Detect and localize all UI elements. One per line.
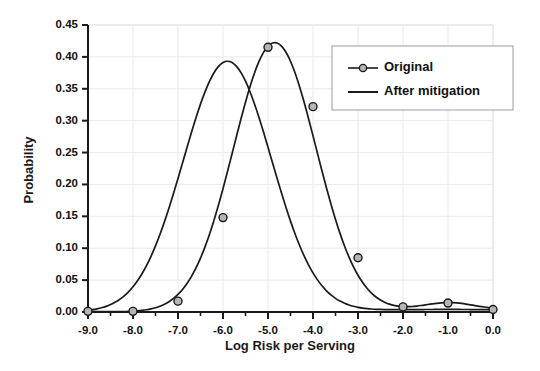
y-axis-title: Probability (21, 136, 36, 204)
data-point-marker (489, 305, 497, 313)
x-tick-label: -3.0 (348, 324, 368, 336)
y-tick-label: 0.25 (56, 146, 79, 158)
y-tick-label: 0.10 (56, 241, 78, 253)
y-tick-label: 0.00 (56, 305, 78, 317)
data-point-marker (174, 297, 182, 305)
legend-label-after-mitigation: After mitigation (384, 83, 480, 98)
y-tick-label: 0.30 (56, 114, 78, 126)
y-tick-label: 0.35 (56, 82, 79, 94)
data-point-marker (84, 307, 92, 315)
x-axis-title: Log Risk per Serving (225, 338, 355, 353)
data-point-marker (264, 43, 272, 51)
x-tick-label: 0.0 (485, 324, 501, 336)
data-point-marker (444, 299, 452, 307)
probability-distribution-chart: 0.000.050.100.150.200.250.300.350.400.45… (0, 0, 540, 371)
legend-label-original: Original (384, 59, 433, 74)
x-tick-label: -6.0 (213, 324, 233, 336)
legend: Original After mitigation (332, 46, 513, 110)
x-tick-label: -1.0 (438, 324, 458, 336)
x-tick-label: -4.0 (303, 324, 323, 336)
y-tick-label: 0.40 (56, 50, 78, 62)
x-tick-label: -5.0 (258, 324, 278, 336)
circle-marker-icon (359, 64, 366, 71)
data-point-marker (354, 254, 362, 262)
y-tick-label: 0.15 (56, 209, 79, 221)
x-tick-label: -9.0 (78, 324, 98, 336)
y-tick-label: 0.45 (56, 18, 79, 30)
y-tick-label: 0.20 (56, 177, 78, 189)
data-point-marker (309, 103, 317, 111)
x-tick-label: -2.0 (393, 324, 413, 336)
y-tick-label: 0.05 (56, 273, 79, 285)
x-tick-label: -7.0 (168, 324, 188, 336)
data-point-marker (129, 307, 137, 315)
data-point-marker (219, 214, 227, 222)
legend-box (332, 46, 513, 110)
data-point-marker (399, 303, 407, 311)
x-tick-label: -8.0 (123, 324, 143, 336)
